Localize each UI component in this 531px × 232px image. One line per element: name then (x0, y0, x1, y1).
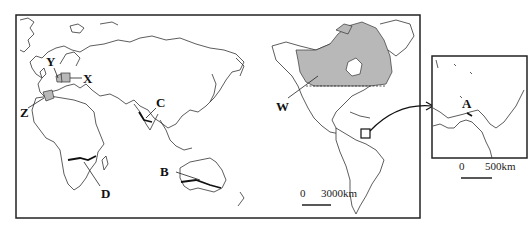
world-map: Y X Z C D B W 0 3000km A 0 500km (0, 0, 531, 232)
scale-inset-distance: 500km (485, 160, 516, 172)
scale-main-zero: 0 (300, 187, 306, 199)
label-z: Z (20, 105, 29, 120)
label-c: C (156, 95, 165, 110)
label-w: W (276, 99, 289, 114)
scale-inset-zero: 0 (459, 160, 465, 172)
label-y: Y (46, 54, 56, 69)
label-b: B (160, 164, 169, 179)
label-a: A (462, 96, 472, 111)
inset-map-frame (432, 56, 527, 158)
scale-main-distance: 3000km (321, 187, 358, 199)
region-x (61, 73, 70, 82)
label-x: X (83, 71, 93, 86)
label-d: D (101, 186, 110, 201)
